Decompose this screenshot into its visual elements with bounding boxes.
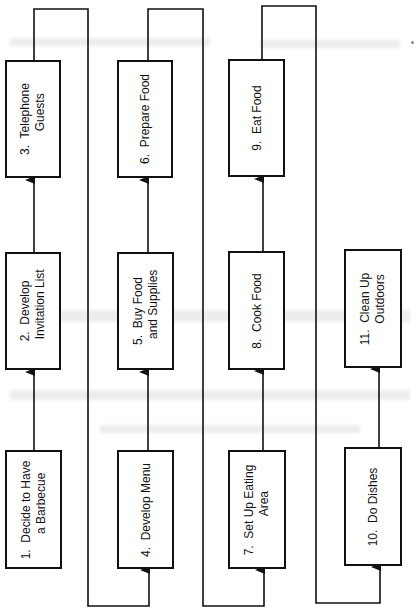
step-box-11: 11. Clean Up Outdoors: [344, 249, 402, 368]
step-label: 6. Prepare Food: [138, 74, 153, 164]
step-box-4: 4. Develop Menu: [117, 450, 174, 569]
step-label: 4. Develop Menu: [138, 462, 153, 556]
step-label: 7. Set Up Eating Area: [242, 464, 272, 555]
step-box-10: 10. Do Dishes: [344, 447, 402, 566]
step-box-8: 8. Cook Food: [228, 251, 285, 370]
step-label: 10. Do Dishes: [366, 467, 381, 546]
step-label: 3. Telephone Guests: [18, 83, 48, 155]
step-box-1: 1. Decide to Have a Barbecue: [5, 450, 62, 569]
scan-dot: [411, 41, 414, 44]
step-box-5: 5. Buy Food and Supplies: [117, 252, 174, 370]
step-box-7: 7. Set Up Eating Area: [228, 450, 286, 569]
step-box-9: 9. Eat Food: [228, 59, 285, 177]
step-label: 1. Decide to Have a Barbecue: [19, 460, 49, 559]
step-box-2: 2. Develop Invitation List: [5, 252, 61, 370]
step-label: 11. Clean Up Outdoors: [358, 272, 388, 345]
step-box-3: 3. Telephone Guests: [5, 60, 61, 178]
step-label: 2. Develop Invitation List: [18, 269, 48, 352]
step-box-6: 6. Prepare Food: [117, 60, 173, 178]
step-label: 5. Buy Food and Supplies: [131, 270, 161, 353]
step-label: 9. Eat Food: [249, 85, 264, 150]
step-label: 8. Cook Food: [249, 273, 264, 348]
